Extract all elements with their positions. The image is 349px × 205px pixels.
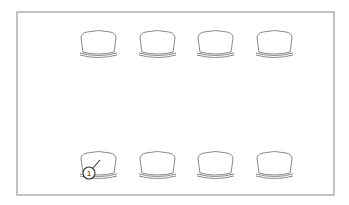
seat-body-outline [140,152,175,176]
seat [256,31,293,58]
seat [256,152,293,179]
seat [139,31,176,58]
seat [197,31,234,58]
seat-body-outline [257,31,292,55]
diagram-canvas: 1 [0,0,349,205]
seat-body-outline [140,31,175,55]
seat-body-outline [198,31,233,55]
callout-label: 1 [87,169,92,178]
seat [197,152,234,179]
seat [80,31,117,58]
seat-body-outline [198,152,233,176]
bottom-row [80,152,293,179]
seat-body-outline [81,31,116,55]
seat-body-outline [257,152,292,176]
seat-group [80,31,293,179]
top-row [80,31,293,58]
seat [139,152,176,179]
